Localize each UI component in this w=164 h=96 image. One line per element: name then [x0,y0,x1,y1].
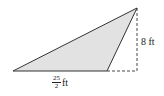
triangle-diagram [0,0,164,96]
base-fraction: 25 2 [52,75,61,90]
base-denominator: 2 [55,83,59,90]
height-label: 8 ft [141,37,155,47]
base-unit: ft [62,78,68,88]
triangle-shape [13,8,137,71]
